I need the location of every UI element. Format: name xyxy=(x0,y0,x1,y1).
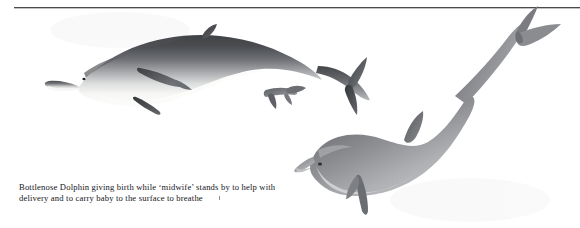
mother-eye xyxy=(82,78,85,80)
midwife-eye xyxy=(318,163,322,166)
caption-line-1: Bottlenose Dolphin giving birth while ‘m… xyxy=(19,182,319,193)
caption-line-2: delivery and to carry baby to the surfac… xyxy=(19,193,319,204)
baby-dolphin xyxy=(264,86,306,109)
baby-fluke-right xyxy=(286,86,306,94)
midwife-tail-stock xyxy=(455,25,521,104)
baby-fluke-lower-right xyxy=(284,93,292,105)
midwife-dorsal-fin xyxy=(404,111,423,143)
illustration-plate: Bottlenose Dolphin giving birth while ‘m… xyxy=(0,0,580,228)
figure-caption: Bottlenose Dolphin giving birth while ‘m… xyxy=(19,182,319,205)
baby-fluke-lower xyxy=(268,93,276,109)
